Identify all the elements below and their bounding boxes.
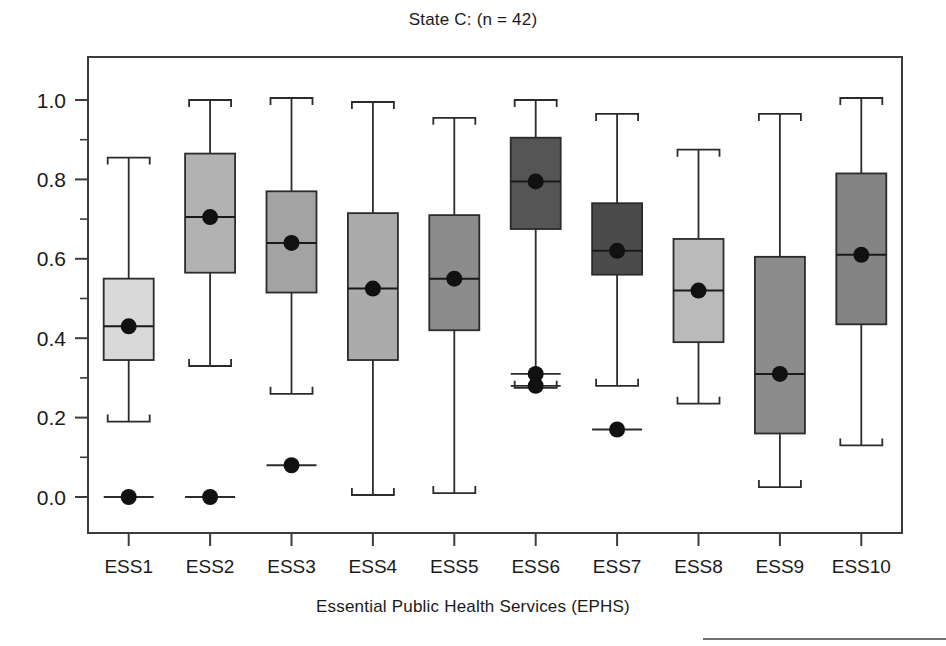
y-tick-label: 0.2 xyxy=(37,406,66,429)
mean-marker xyxy=(609,243,625,259)
x-tick-label-ess2: ESS2 xyxy=(186,556,235,577)
boxplot-ess2 xyxy=(185,100,235,505)
y-tick-label: 1.0 xyxy=(37,89,66,112)
boxplot-chart: State C: (n = 42) 0.00.20.40.60.81.0 ESS… xyxy=(0,0,946,646)
box-iqr xyxy=(755,257,805,434)
mean-marker xyxy=(202,209,218,225)
boxplot-ess9 xyxy=(755,114,805,487)
outlier-marker xyxy=(528,378,544,394)
y-tick-label: 0.8 xyxy=(37,168,66,191)
x-tick-label-ess10: ESS10 xyxy=(832,556,891,577)
y-axis: 0.00.20.40.60.81.0 xyxy=(37,89,88,509)
x-tick-label-ess1: ESS1 xyxy=(104,556,153,577)
mean-marker xyxy=(691,283,707,299)
boxplot-ess3 xyxy=(267,98,317,473)
page-rule xyxy=(703,638,946,640)
mean-marker xyxy=(772,366,788,382)
y-tick-label: 0.6 xyxy=(37,247,66,270)
x-tick-label-ess3: ESS3 xyxy=(267,556,316,577)
x-tick-label-ess4: ESS4 xyxy=(349,556,398,577)
mean-marker xyxy=(853,247,869,263)
mean-marker xyxy=(528,173,544,189)
mean-marker xyxy=(284,235,300,251)
outlier-marker xyxy=(284,457,300,473)
boxplot-ess1 xyxy=(104,158,154,505)
boxplot-ess10 xyxy=(836,98,886,445)
boxplot-ess8 xyxy=(674,150,724,404)
x-axis: ESS1ESS2ESS3ESS4ESS5ESS6ESS7ESS8ESS9ESS1… xyxy=(104,533,890,577)
mean-marker xyxy=(121,318,137,334)
mean-marker xyxy=(365,281,381,297)
mean-marker xyxy=(446,271,462,287)
boxplot-ess4 xyxy=(348,102,398,495)
x-tick-label-ess8: ESS8 xyxy=(674,556,723,577)
boxplot-ess5 xyxy=(429,118,479,493)
y-tick-label: 0.0 xyxy=(37,486,66,509)
outlier-marker xyxy=(609,422,625,438)
x-tick-label-ess7: ESS7 xyxy=(593,556,642,577)
outlier-marker xyxy=(121,489,137,505)
box-iqr xyxy=(592,203,642,274)
x-tick-label-ess6: ESS6 xyxy=(511,556,560,577)
boxplot-ess6 xyxy=(511,100,561,394)
y-tick-label: 0.4 xyxy=(37,327,67,350)
outlier-marker xyxy=(202,489,218,505)
boxplot-ess7 xyxy=(592,114,642,438)
x-axis-title: Essential Public Health Services (EPHS) xyxy=(0,597,946,617)
box-series xyxy=(104,98,887,505)
plot-area: 0.00.20.40.60.81.0 ESS1ESS2ESS3ESS4ESS5E… xyxy=(0,0,946,646)
x-tick-label-ess5: ESS5 xyxy=(430,556,479,577)
x-tick-label-ess9: ESS9 xyxy=(756,556,805,577)
